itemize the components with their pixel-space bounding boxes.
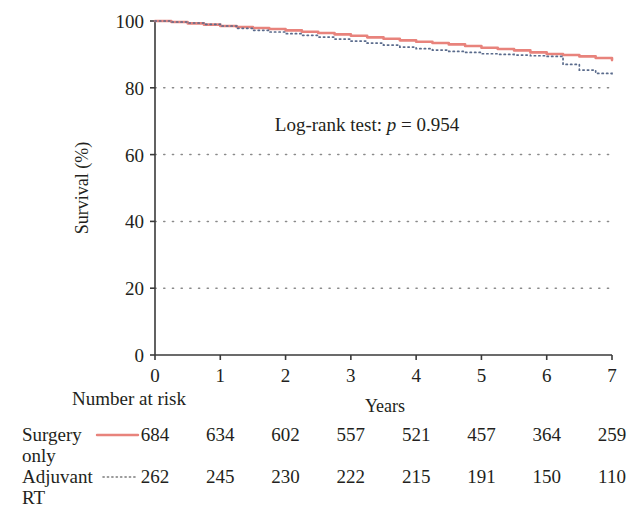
x-axis-title: Years [365,396,405,416]
y-tick-label: 80 [125,78,144,99]
risk-count: 262 [141,466,170,487]
x-tick-label: 6 [542,365,552,386]
y-tick-label: 20 [125,278,144,299]
log-rank-prefix: Log-rank test: [275,114,387,135]
risk-row-label-line1: Surgery [22,424,82,445]
y-axis-title: Survival (%) [72,142,93,234]
risk-count: 150 [532,466,561,487]
log-rank-suffix: = 0.954 [396,114,459,135]
risk-count: 245 [206,466,235,487]
x-tick-label: 0 [150,365,160,386]
risk-count: 634 [206,424,235,445]
y-tick-label: 100 [116,11,145,32]
risk-count: 110 [598,466,626,487]
y-tick-label: 40 [125,211,144,232]
risk-count: 215 [402,466,431,487]
risk-count: 259 [598,424,627,445]
x-tick-label: 2 [281,365,291,386]
log-rank-annotation: Log-rank test: p = 0.954 [275,114,460,135]
risk-count: 602 [271,424,300,445]
risk-row-label-line1: Adjuvant [22,466,93,487]
x-tick-label: 4 [411,365,421,386]
risk-count: 191 [467,466,496,487]
risk-row-label-line2: only [22,445,56,466]
series-line-adjuvant-rt [155,21,612,76]
x-tick-label: 5 [477,365,487,386]
risk-count: 457 [467,424,496,445]
x-axis-tick-labels: 01234567 [150,365,617,386]
kaplan-meier-chart: 020406080100 01234567 Survival (%) Log-r… [0,0,637,517]
risk-table: Surgeryonly684634602557521457364259Adjuv… [22,424,626,508]
y-tick-label: 60 [125,145,144,166]
y-axis-tick-labels: 020406080100 [116,11,145,366]
risk-count: 521 [402,424,431,445]
risk-count: 230 [271,466,300,487]
x-tick-label: 1 [216,365,226,386]
x-tick-label: 3 [346,365,356,386]
risk-count: 557 [337,424,366,445]
risk-row-label-line2: RT [22,487,46,508]
log-rank-p-symbol: p [385,114,397,135]
risk-table-heading: Number at risk [72,388,186,409]
survival-curve-figure: 020406080100 01234567 Survival (%) Log-r… [0,0,637,517]
series-line-surgery-only [155,21,612,60]
risk-count: 684 [141,424,170,445]
y-tick-label: 0 [135,345,145,366]
x-tick-label: 7 [607,365,617,386]
risk-count: 222 [337,466,366,487]
risk-count: 364 [532,424,561,445]
